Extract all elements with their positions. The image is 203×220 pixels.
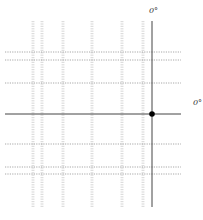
- origin-point: [149, 111, 155, 117]
- horizontal-axis-label: 0°: [193, 99, 202, 107]
- grid-diagram: [0, 0, 203, 220]
- vertical-axis-label: 0°: [149, 7, 158, 15]
